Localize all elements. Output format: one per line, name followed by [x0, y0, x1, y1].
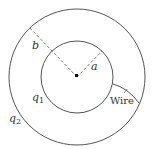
label-a: a [91, 60, 98, 73]
radius-b-line [29, 27, 77, 77]
center-point [75, 74, 78, 77]
shell-diagram: b a q1 q2 Wire [0, 0, 152, 149]
label-q1: q1 [32, 91, 44, 105]
label-q2: q2 [9, 112, 21, 126]
radius-a-line [77, 51, 102, 77]
label-b: b [32, 39, 39, 52]
label-wire: Wire [110, 95, 134, 106]
